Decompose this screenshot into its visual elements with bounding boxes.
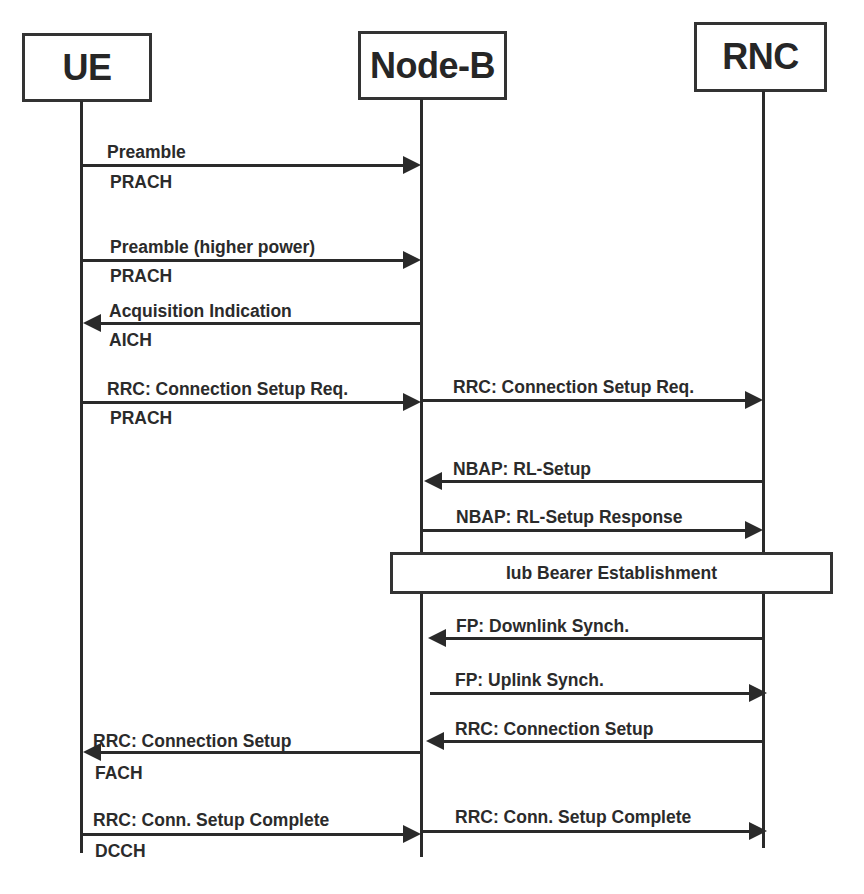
arrow-head-right-icon: [749, 684, 767, 702]
arrow-head-right-icon: [403, 393, 421, 411]
arrow-line: [82, 164, 404, 167]
arrow-head-right-icon: [745, 521, 763, 539]
arrow-head-left-icon: [83, 314, 101, 332]
channel-label: FACH: [95, 763, 143, 783]
message-label: NBAP: RL-Setup Response: [456, 507, 683, 527]
entity-rnc-label: RNC: [722, 36, 799, 78]
arrow-head-right-icon: [403, 251, 421, 269]
arrow-line: [445, 637, 763, 640]
arrow-head-right-icon: [749, 822, 767, 840]
arrow-line: [423, 529, 746, 532]
message-label: Preamble: [107, 142, 186, 162]
arrow-line: [82, 833, 404, 836]
message-label: RRC: Conn. Setup Complete: [93, 810, 329, 830]
lifeline-rnc: [762, 91, 765, 848]
arrow-line: [441, 480, 763, 483]
arrow-line: [100, 322, 421, 325]
arrow-head-right-icon: [745, 391, 763, 409]
entity-ue-label: UE: [62, 47, 111, 89]
entity-nodeb-label: Node-B: [370, 45, 495, 87]
message-label: Preamble (higher power): [110, 237, 315, 257]
entity-nodeb: Node-B: [358, 31, 507, 100]
arrow-line: [82, 259, 404, 262]
message-label: RRC: Connection Setup Req.: [453, 377, 694, 397]
message-label: NBAP: RL-Setup: [453, 459, 591, 479]
lifeline-ue: [80, 101, 83, 853]
channel-label: PRACH: [110, 172, 172, 192]
arrow-line: [443, 740, 763, 743]
arrow-line: [100, 751, 421, 754]
message-label: FP: Downlink Synch.: [456, 616, 629, 636]
message-label: FP: Uplink Synch.: [455, 670, 604, 690]
phase-label: Iub Bearer Establishment: [506, 563, 717, 584]
channel-label: AICH: [109, 330, 152, 350]
channel-label: DCCH: [95, 841, 146, 861]
entity-ue: UE: [22, 33, 152, 102]
message-label: Acquisition Indication: [109, 301, 292, 321]
message-label: RRC: Connection Setup: [455, 719, 653, 739]
phase-iub-bearer-establishment: Iub Bearer Establishment: [390, 552, 833, 594]
arrow-line: [423, 399, 746, 402]
arrow-head-right-icon: [403, 825, 421, 843]
arrow-line: [423, 830, 750, 833]
arrow-head-left-icon: [83, 743, 101, 761]
arrow-head-left-icon: [426, 732, 444, 750]
arrow-line: [82, 401, 404, 404]
channel-label: PRACH: [110, 408, 172, 428]
channel-label: PRACH: [110, 266, 172, 286]
message-label: RRC: Conn. Setup Complete: [455, 807, 691, 827]
entity-rnc: RNC: [694, 22, 827, 92]
arrow-head-left-icon: [428, 629, 446, 647]
lifeline-nodeb: [420, 99, 423, 857]
message-label: RRC: Connection Setup: [93, 731, 291, 751]
arrow-line: [430, 692, 750, 695]
arrow-head-left-icon: [424, 472, 442, 490]
message-label: RRC: Connection Setup Req.: [107, 379, 348, 399]
arrow-head-right-icon: [403, 156, 421, 174]
